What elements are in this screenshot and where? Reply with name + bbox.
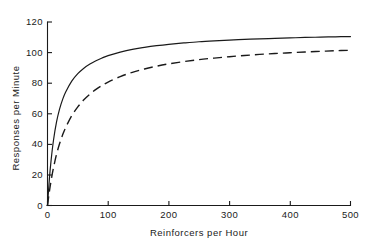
x-axis-ticks [48,201,351,206]
chart-plot-area: Responses per Minute Reinforcers per Hou… [0,0,382,241]
y-axis-title: Responses per Minute [10,65,21,170]
y-tick-label: 60 [32,108,43,119]
y-tick-label: 40 [32,138,43,149]
y-tick-label: 80 [32,77,43,88]
x-tick-label: 200 [160,209,177,220]
y-tick-label: 20 [32,169,43,180]
x-tick-label: 300 [221,209,238,220]
x-tick-label: 500 [342,209,359,220]
series-dashed-curve [48,50,351,205]
x-axis-title: Reinforcers per Hour [150,227,248,238]
x-axis-tick-labels: 0 100 200 300 400 500 [45,209,359,220]
chart-figure: Responses per Minute Reinforcers per Hou… [0,0,382,241]
y-tick-label: 100 [26,47,43,58]
y-tick-label: 0 [37,200,43,211]
y-tick-label: 120 [26,16,43,27]
x-tick-label: 0 [45,209,51,220]
x-tick-label: 400 [282,209,299,220]
series-solid-curve [48,37,351,206]
x-tick-label: 100 [100,209,117,220]
y-axis-tick-labels: 0 20 40 60 80 100 120 [26,16,43,211]
